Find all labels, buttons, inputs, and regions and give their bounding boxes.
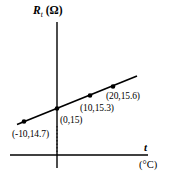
y-axis-variable: R: [33, 4, 41, 16]
data-point-label: (20,15.6): [106, 92, 140, 102]
data-point-marker: [22, 119, 27, 124]
plot-canvas: [0, 0, 172, 181]
y-axis-unit: (Ω): [46, 4, 63, 16]
data-point-marker: [55, 106, 60, 111]
y-axis-subscript: t: [41, 10, 43, 19]
data-point-marker: [111, 84, 116, 89]
x-axis-variable: t: [144, 141, 147, 153]
data-point-label: (0,15): [60, 116, 82, 126]
data-point-label: (10,15.3): [80, 104, 114, 114]
resistance-temperature-figure: Rt (Ω) t (°C) (20,15.6) (10,15.3) (0,15)…: [0, 0, 172, 181]
data-point-marker: [88, 93, 93, 98]
x-axis-unit-text: (°C): [139, 159, 157, 170]
data-point-label: (-10,14.7): [12, 130, 49, 140]
y-axis-label: Rt (Ω): [33, 5, 63, 19]
x-axis-unit: (°C): [139, 160, 157, 171]
x-axis-label: t: [144, 142, 147, 153]
